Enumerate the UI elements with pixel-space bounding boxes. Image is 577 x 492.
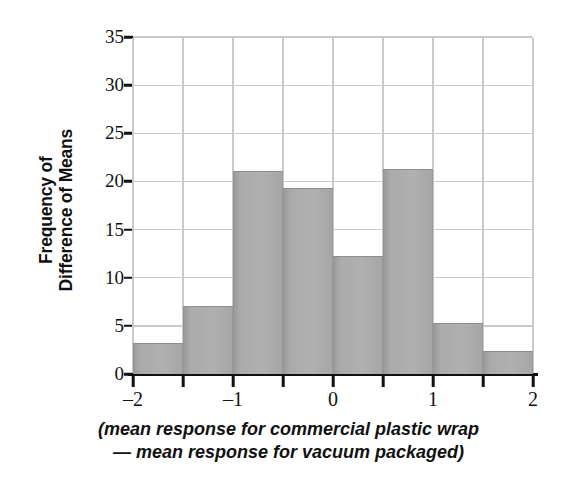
x-axis-caption: (mean response for commercial plastic wr… <box>0 418 577 464</box>
x-axis-caption-line-1: (mean response for commercial plastic wr… <box>0 418 577 441</box>
x-axis-tick-label: 0 <box>328 388 338 411</box>
bar <box>483 351 533 374</box>
y-axis-tick-label: 25 <box>80 122 124 144</box>
y-axis-title-line-2: Difference of Means <box>56 129 76 292</box>
y-axis-tick-label: 0 <box>80 363 124 385</box>
bar <box>383 169 433 374</box>
plot-area <box>133 37 533 374</box>
bar <box>133 343 183 374</box>
bar <box>283 188 333 374</box>
gridline-vertical <box>532 38 533 374</box>
x-axis-tick-mark <box>382 376 385 387</box>
y-axis-tick-label: 20 <box>80 170 124 192</box>
y-axis-tick-label: 35 <box>80 26 124 48</box>
x-axis-tick-mark <box>132 376 135 387</box>
y-axis-tick-label: 15 <box>80 219 124 241</box>
x-axis-tick-mark <box>432 376 435 387</box>
y-axis-title-line-1: Frequency of <box>36 156 56 263</box>
y-axis-tick-label: 5 <box>80 315 124 337</box>
x-axis-caption-line-2: — mean response for vacuum packaged) <box>0 441 577 464</box>
x-axis-tick-mark <box>532 376 535 387</box>
x-axis-tick-label: 2 <box>528 388 538 411</box>
x-axis-tick-marks <box>133 376 533 388</box>
bar <box>333 256 383 374</box>
bar-series <box>133 38 532 374</box>
bar <box>433 323 483 374</box>
x-axis-tick-label: –1 <box>223 388 243 411</box>
x-axis-tick-mark <box>482 376 485 387</box>
x-axis-tick-mark <box>182 376 185 387</box>
histogram-figure: Frequency of Difference of Means 0510152… <box>0 0 577 492</box>
x-axis-tick-label: 1 <box>428 388 438 411</box>
bar <box>233 171 283 374</box>
x-axis-tick-mark <box>232 376 235 387</box>
x-axis-tick-mark <box>282 376 285 387</box>
y-axis-tick-label: 30 <box>80 74 124 96</box>
x-axis-tick-labels: –2–1012 <box>133 388 533 418</box>
y-axis-title: Frequency of Difference of Means <box>28 60 84 360</box>
y-axis-tick-label: 10 <box>80 267 124 289</box>
x-axis-tick-mark <box>332 376 335 387</box>
bar <box>183 306 233 374</box>
x-axis-tick-label: –2 <box>123 388 143 411</box>
